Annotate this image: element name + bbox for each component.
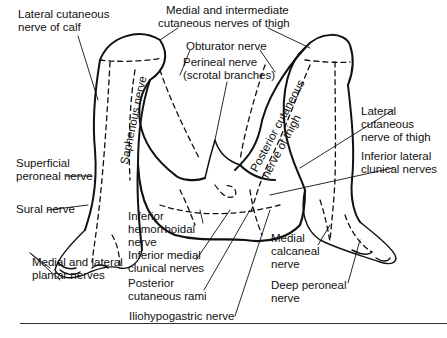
label-line: nerve of calf <box>18 21 109 34</box>
label-line: nerve <box>271 292 346 305</box>
label-inferior-lateral-clunical-nerves: Inferior lateral clunical nerves <box>361 150 437 176</box>
label-line: Inferior <box>128 210 195 223</box>
label-line: Inferior medial <box>128 249 204 262</box>
label-iliohypogastric-nerve: Iliohypogastric nerve <box>129 310 234 323</box>
label-sural-nerve: Sural nerve <box>16 203 75 216</box>
label-medial-intermediate-cutaneous-nerves-of-thigh: Medial and intermediate cutaneous nerves… <box>158 4 290 30</box>
label-posterior-cutaneous-rami: Posterior cutaneous rami <box>128 277 207 303</box>
label-line: Perineal nerve <box>183 56 275 69</box>
label-line: cutaneous <box>361 118 431 131</box>
label-inferior-hemorrhoidal-nerve: Inferior hemorrhoidal nerve <box>128 210 195 249</box>
label-lateral-cutaneous-nerve-of-thigh: Lateral cutaneous nerve of thigh <box>361 105 431 144</box>
label-line: Medial <box>271 232 320 245</box>
label-superficial-peroneal-nerve: Superficial peroneal nerve <box>16 157 93 183</box>
bottom-divider-rule <box>20 323 447 324</box>
label-line: nerve <box>128 236 195 249</box>
label-line: Iliohypogastric nerve <box>129 310 234 323</box>
label-medial-lateral-plantar-nerves: Medial and lateral plantar nerves <box>32 256 123 282</box>
label-line: cutaneous nerves of thigh <box>158 17 290 30</box>
label-line: Sural nerve <box>16 203 75 216</box>
label-line: Posterior <box>128 277 207 290</box>
label-line: calcaneal <box>271 245 320 258</box>
label-obturator-nerve: Obturator nerve <box>186 40 267 53</box>
label-line: plantar nerves <box>32 269 123 282</box>
label-line: hemorrhoidal <box>128 223 195 236</box>
label-line: (scrotal branches) <box>183 69 275 82</box>
label-lateral-cutaneous-nerve-of-calf: Lateral cutaneous nerve of calf <box>18 8 109 34</box>
label-medial-calcaneal-nerve: Medial calcaneal nerve <box>271 232 320 271</box>
label-line: nerve of thigh <box>361 131 431 144</box>
label-line: Lateral cutaneous <box>18 8 109 21</box>
label-line: Obturator nerve <box>186 40 267 53</box>
label-perineal-nerve: Perineal nerve (scrotal branches) <box>183 56 275 82</box>
label-line: nerve <box>271 258 320 271</box>
label-line: Medial and lateral <box>32 256 123 269</box>
label-line: Lateral <box>361 105 431 118</box>
label-line: Superficial <box>16 157 93 170</box>
label-inferior-medial-clunical-nerves: Inferior medial clunical nerves <box>128 249 204 275</box>
label-line: clunical nerves <box>128 262 204 275</box>
label-line: clunical nerves <box>361 163 437 176</box>
label-deep-peroneal-nerve: Deep peroneal nerve <box>271 279 346 305</box>
label-line: peroneal nerve <box>16 170 93 183</box>
label-line: cutaneous rami <box>128 290 207 303</box>
label-line: Medial and intermediate <box>158 4 290 17</box>
label-line: Deep peroneal <box>271 279 346 292</box>
label-line: Inferior lateral <box>361 150 437 163</box>
